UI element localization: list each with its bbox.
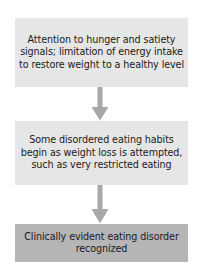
- flow-node-healthy-label: Attention to hunger and satiety signals;…: [15, 34, 188, 71]
- flow-node-disordered: Some disordered eating habits begin as w…: [15, 121, 188, 185]
- flowchart-diagram: Attention to hunger and satiety signals;…: [0, 0, 200, 274]
- down-arrow-icon-glyph: [88, 87, 112, 121]
- down-arrow-icon: [88, 185, 112, 224]
- flow-node-clinical: Clinically evident eating disorder recog…: [15, 224, 188, 262]
- down-arrow-icon: [88, 87, 112, 121]
- flow-node-clinical-label: Clinically evident eating disorder recog…: [15, 231, 188, 256]
- flow-node-disordered-label: Some disordered eating habits begin as w…: [15, 134, 188, 171]
- down-arrow-icon-glyph: [88, 185, 112, 224]
- flow-node-healthy: Attention to hunger and satiety signals;…: [15, 18, 188, 87]
